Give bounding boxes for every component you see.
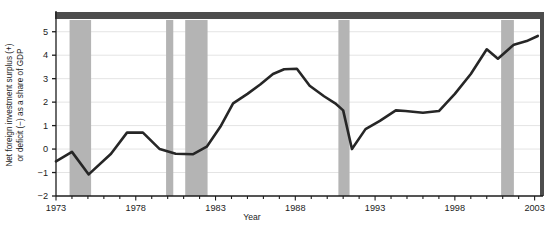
y-tick-label-5: 5 <box>43 27 48 37</box>
y-tick-label--2: −2 <box>38 191 48 201</box>
y-tick-label-0: 0 <box>43 144 48 154</box>
y-axis-label-line1: Net foreign investment surplus (+) <box>5 43 16 166</box>
data-line-series <box>56 36 538 174</box>
x-axis-label: Year <box>243 212 260 222</box>
recession-band-1974-1975 <box>70 20 92 196</box>
recession-bands <box>70 20 514 196</box>
y-tick-label--1: −1 <box>38 168 48 178</box>
recession-band-1981-1982 <box>185 20 207 196</box>
x-axis-label-wrap: Year <box>0 212 560 222</box>
y-axis-label: Net foreign investment surplus (+) or de… <box>0 0 32 210</box>
top-border-bar <box>55 12 544 196</box>
y-axis-label-line2: or deficit (−) as a share of GDP <box>16 43 27 166</box>
data-line <box>56 36 538 174</box>
y-tick-label-1: 1 <box>43 121 48 131</box>
recession-band-1980 <box>166 20 173 196</box>
y-axis-tick-labels: −2−1012345 <box>38 27 48 201</box>
y-tick-label-4: 4 <box>43 50 48 60</box>
axes <box>56 11 543 196</box>
top-bar <box>55 12 543 19</box>
y-tick-label-2: 2 <box>43 97 48 107</box>
x-axis-ticks <box>56 196 535 201</box>
right-bar <box>540 12 544 196</box>
y-tick-label-3: 3 <box>43 74 48 84</box>
line-chart-plot: 1973197819831988199319982003 −2−1012345 <box>0 0 560 232</box>
gridlines <box>56 32 541 173</box>
chart-figure: Net foreign investment surplus (+) or de… <box>0 0 560 232</box>
